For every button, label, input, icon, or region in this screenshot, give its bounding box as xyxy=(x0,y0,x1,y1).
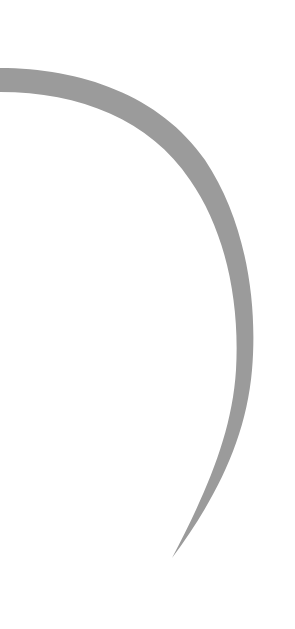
canvas xyxy=(0,0,295,629)
curved-stroke xyxy=(0,68,253,558)
curved-stroke-graphic xyxy=(0,0,295,629)
